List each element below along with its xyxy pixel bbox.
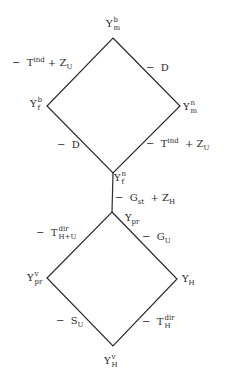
stem-line: [112, 173, 113, 212]
node-middle-bottom: Ypr: [125, 213, 139, 226]
term-sub: H: [164, 322, 174, 330]
node-sub: pr: [132, 218, 140, 226]
term-sub: U: [165, 237, 171, 245]
node-top: Ybm: [106, 16, 120, 32]
term-sub: st: [138, 198, 144, 206]
term-sub: H+U: [58, 233, 76, 241]
term-sup: dir: [58, 225, 76, 233]
edge-label-low-lower-right: − TdirH: [142, 314, 175, 330]
term-base: D: [72, 139, 80, 150]
term-base: D: [161, 62, 169, 73]
edge-label-mid-right: − Tind + ZU: [146, 138, 209, 152]
edge-label-low-lower-left: − SU: [56, 316, 84, 329]
node-scripts: vpr: [35, 270, 43, 286]
plus-sign: +: [185, 138, 193, 149]
node-base: Y: [104, 355, 111, 366]
term-scripts: dirH: [164, 314, 174, 330]
term-base: T: [157, 316, 164, 327]
term-base: G: [157, 231, 165, 242]
node-sup: v: [112, 353, 118, 361]
edge-label-low-upper-right: − GU: [142, 232, 171, 245]
plus-sign: +: [48, 57, 56, 68]
minus-sign: −: [142, 231, 150, 242]
node-lower-left: Yvpr: [27, 270, 42, 286]
node-sup: n: [191, 99, 198, 107]
node-middle-top: Ynf: [114, 170, 126, 186]
term-scripts: dirH+U: [58, 225, 76, 241]
node-scripts: bf: [38, 96, 42, 112]
node-scripts: bm: [114, 16, 121, 32]
edge-label-low-upper-left: − TdirH+U: [36, 225, 76, 241]
minus-sign: −: [142, 316, 150, 327]
edge-label-mid-left: − D: [57, 140, 80, 150]
node-sub: f: [122, 178, 127, 186]
term-sup: dir: [164, 314, 174, 322]
node-scripts: nm: [191, 99, 198, 115]
term-sub: U: [204, 144, 210, 152]
node-sub: f: [38, 104, 42, 112]
term-sup: ind: [33, 56, 44, 64]
node-sup: b: [114, 16, 121, 24]
node-upper-right: Ynm: [183, 99, 197, 115]
term-base: T: [51, 227, 58, 238]
term-sup: ind: [167, 137, 178, 145]
node-sub: pr: [35, 278, 43, 286]
node-sup: v: [35, 270, 43, 278]
term-sub: U: [78, 321, 84, 329]
edge-label-stem: − Gst + ZH: [115, 193, 175, 206]
node-base: Y: [114, 172, 121, 183]
node-sub: m: [191, 107, 198, 115]
minus-sign: −: [12, 57, 20, 68]
term-base: G: [130, 192, 138, 203]
node-sub: H: [189, 279, 195, 287]
node-scripts: vH: [112, 353, 118, 369]
node-base: Y: [30, 98, 37, 109]
minus-sign: −: [36, 227, 44, 238]
minus-sign: −: [56, 315, 64, 326]
node-sub: H: [112, 361, 118, 369]
node-lower-right: YH: [182, 274, 195, 287]
term-base: Z: [197, 138, 204, 149]
node-base: Y: [125, 212, 132, 223]
plus-sign: +: [151, 192, 159, 203]
node-base: Y: [183, 101, 190, 112]
node-sup: n: [122, 170, 127, 178]
minus-sign: −: [57, 139, 65, 150]
node-sub: m: [114, 24, 121, 32]
term-sub: H: [169, 198, 175, 206]
term-base: S: [71, 315, 78, 326]
node-sup: b: [38, 96, 42, 104]
node-scripts: nf: [122, 170, 127, 186]
edge-label-top-right: − D: [146, 63, 169, 73]
node-base: Y: [182, 273, 189, 284]
node-bottom: YvH: [104, 353, 118, 369]
minus-sign: −: [146, 138, 154, 149]
term-sub: U: [66, 63, 72, 71]
minus-sign: −: [146, 62, 154, 73]
node-base: Y: [27, 272, 34, 283]
minus-sign: −: [115, 192, 123, 203]
edge-label-top-left: − Tind + ZU: [12, 57, 72, 71]
term-base: Z: [162, 192, 169, 203]
node-upper-left: Ybf: [30, 96, 42, 112]
node-base: Y: [106, 18, 113, 29]
